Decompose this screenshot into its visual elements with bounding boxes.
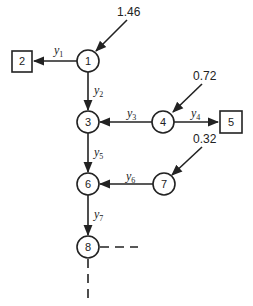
input-value-1: 1.46 (117, 6, 140, 18)
diagram-graphics (0, 0, 253, 306)
edge-label-y7: y7 (94, 208, 103, 223)
edge-label-y1: y1 (54, 44, 63, 59)
node-6-label: 6 (77, 173, 99, 195)
node-1-label: 1 (77, 50, 99, 72)
edge-label-y5: y5 (94, 146, 103, 161)
input-value-4: 0.72 (193, 70, 216, 82)
node-3-label: 3 (77, 111, 99, 133)
input-arrow-7 (172, 147, 202, 175)
edge-label-y2: y2 (94, 84, 103, 99)
edge-label-y4: y4 (191, 107, 200, 122)
input-arrow-1 (96, 20, 127, 51)
node-2-label: 2 (11, 50, 33, 72)
edge-label-y6: y6 (126, 170, 135, 185)
node-8-label: 8 (77, 236, 99, 258)
input-value-7: 0.32 (193, 133, 216, 145)
network-diagram: 1 2 3 4 5 6 7 8 1.46 0.72 0.32 y1 y2 y3 … (0, 0, 253, 306)
node-5-label: 5 (220, 111, 242, 133)
node-7-label: 7 (153, 173, 175, 195)
edge-label-y3: y3 (127, 107, 136, 122)
node-4-label: 4 (152, 111, 174, 133)
